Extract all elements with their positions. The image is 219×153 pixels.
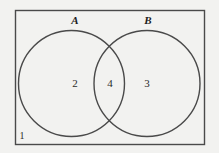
set-b-label: B — [143, 14, 151, 26]
venn-diagram-container: A B 2 4 3 1 — [0, 0, 219, 153]
region-count-a-only: 2 — [72, 77, 78, 89]
set-a-label: A — [70, 14, 78, 26]
region-count-intersection: 4 — [107, 77, 113, 89]
venn-diagram-svg: A B 2 4 3 1 — [0, 0, 219, 153]
region-count-b-only: 3 — [144, 77, 150, 89]
universe-count: 1 — [20, 130, 25, 141]
